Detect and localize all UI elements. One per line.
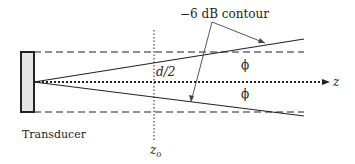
axis-arrowhead-icon [322,79,330,85]
contour-pointer-upper [212,22,265,43]
z0-label-sub: 0 [156,150,161,159]
z0-label: z0 [150,144,161,159]
arrowhead-icon [189,95,194,102]
half-width-label: d/2 [156,66,175,78]
angle-label-lower: ϕ [241,88,249,100]
lower-beam-edge [34,82,304,116]
transducer-label: Transducer [22,129,86,140]
arrowhead-icon [258,38,265,43]
angle-label-upper: ϕ [241,59,249,71]
contour-label: −6 dB contour [180,8,269,20]
axis-label: z [333,76,339,88]
contour-pointer-lower [191,22,212,102]
transducer-element [21,52,34,112]
